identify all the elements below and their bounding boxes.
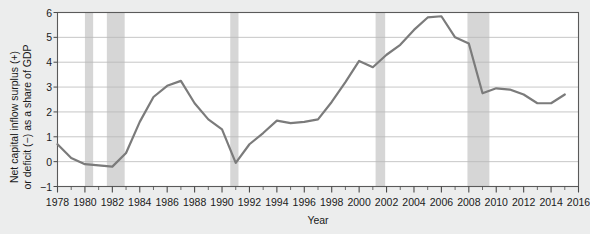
x-tick-label-1984: 1984 (128, 196, 151, 208)
x-tick-label-1988: 1988 (183, 196, 206, 208)
x-tick-label-2012: 2012 (512, 196, 535, 208)
y-tick-label-1: 1 (28, 131, 52, 143)
x-tick-label-2002: 2002 (375, 196, 398, 208)
y-tick-label--1: −1 (28, 181, 52, 193)
y-tick-label-4: 4 (28, 56, 52, 68)
x-tick-label-2004: 2004 (402, 196, 425, 208)
x-tick-label-2014: 2014 (539, 196, 562, 208)
x-tick-label-2016: 2016 (567, 196, 590, 208)
recession-band-4 (467, 13, 489, 187)
recession-band-0 (85, 13, 93, 187)
y-tick-label-6: 6 (28, 7, 52, 19)
x-tick-label-1990: 1990 (210, 196, 233, 208)
x-tick-label-1998: 1998 (320, 196, 343, 208)
y-tick-label-2: 2 (28, 106, 52, 118)
x-tick-label-1996: 1996 (293, 196, 316, 208)
plot-background (58, 13, 579, 187)
x-tick-label-2008: 2008 (457, 196, 480, 208)
x-tick-label-2010: 2010 (485, 196, 508, 208)
recession-band-1 (107, 13, 125, 187)
x-tick-label-1982: 1982 (101, 196, 124, 208)
y-tick-label-3: 3 (28, 81, 52, 93)
x-tick-label-1986: 1986 (155, 196, 178, 208)
x-tick-label-2000: 2000 (347, 196, 370, 208)
recession-band-3 (376, 13, 386, 187)
x-tick-label-1978: 1978 (46, 196, 69, 208)
x-tick-label-1980: 1980 (73, 196, 96, 208)
x-tick-label-2006: 2006 (430, 196, 453, 208)
x-axis-label: Year (57, 214, 579, 226)
y-tick-label-0: 0 (28, 156, 52, 168)
y-tick-label-5: 5 (28, 31, 52, 43)
x-tick-label-1992: 1992 (238, 196, 261, 208)
x-tick-label-1994: 1994 (265, 196, 288, 208)
